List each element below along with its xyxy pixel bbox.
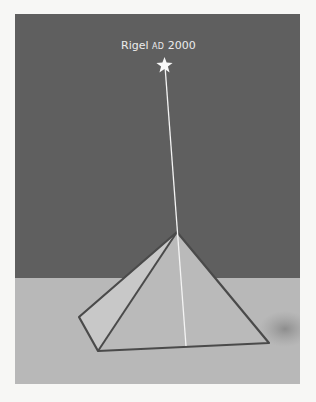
star-era: AD <box>152 42 164 51</box>
sky-background <box>15 14 300 278</box>
diagram-canvas <box>15 14 300 384</box>
star-label: Rigel AD 2000 <box>121 39 196 52</box>
star-name: Rigel <box>121 39 149 52</box>
rigel-pyramid-diagram: Rigel AD 2000 <box>15 14 300 384</box>
star-year: 2000 <box>168 39 196 52</box>
